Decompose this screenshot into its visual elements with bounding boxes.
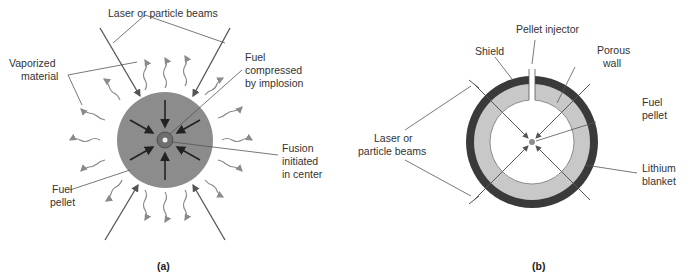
label-lithium-2: blanket <box>642 175 676 187</box>
label-compressed-1: Fuel <box>245 51 265 63</box>
label-shield: Shield <box>475 45 504 57</box>
label-compressed-2: compressed <box>245 64 302 76</box>
label-pellet-a-2: pellet <box>50 196 75 208</box>
label-fusion-1: Fusion <box>282 142 314 154</box>
label-vaporized-1: Vaporized <box>9 57 56 69</box>
fuel-pellet-b <box>529 139 535 145</box>
label-fusion-2: initiated <box>282 155 318 167</box>
label-porous-2: wall <box>602 57 621 69</box>
label-pellet-a-1: Fuel <box>52 183 72 195</box>
label-beams-b-1: Laser or <box>374 132 413 144</box>
label-pellet-b-2: pellet <box>642 109 667 121</box>
pellet-injector <box>529 69 535 101</box>
caption-a: (a) <box>157 260 170 272</box>
label-beams-a: Laser or particle beams <box>108 7 218 19</box>
label-compressed-3: by implosion <box>245 77 304 89</box>
label-beams-b-2: particle beams <box>358 145 426 157</box>
fusion-center <box>163 138 168 143</box>
diagram-b: Pellet injector Shield Porous wall Fuel … <box>358 23 676 272</box>
label-injector: Pellet injector <box>516 23 580 35</box>
label-vaporized-2: material <box>21 70 58 82</box>
diagram-a: Laser or particle beams Vaporized materi… <box>9 7 323 272</box>
label-pellet-b-1: Fuel <box>642 96 662 108</box>
caption-b: (b) <box>532 260 545 272</box>
label-fusion-3: in center <box>282 168 323 180</box>
label-porous-1: Porous <box>597 44 630 56</box>
label-lithium-1: Lithium <box>642 162 676 174</box>
fusion-diagram: Laser or particle beams Vaporized materi… <box>0 0 691 278</box>
